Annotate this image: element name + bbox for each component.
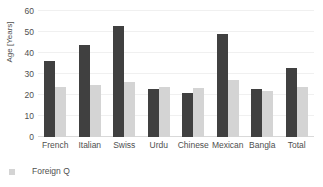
bar-group — [280, 11, 315, 137]
x-tick-label: Bangla — [245, 140, 280, 154]
y-axis-title: Age [Years] — [6, 6, 14, 78]
bar — [297, 87, 308, 137]
bar-groups — [38, 11, 314, 137]
bar-group — [211, 11, 246, 137]
bar-group — [142, 11, 177, 137]
bar — [159, 87, 170, 137]
bar-group — [245, 11, 280, 137]
bar — [124, 82, 135, 137]
bar-group — [73, 11, 108, 137]
legend-label: Foreign Q — [32, 167, 70, 176]
bar-group — [176, 11, 211, 137]
bar — [193, 88, 204, 137]
bar — [217, 34, 228, 137]
chart-legend: Foreign Q — [9, 167, 70, 176]
bar — [90, 85, 101, 138]
bar — [228, 80, 239, 137]
bar — [44, 61, 55, 137]
x-tick-label: Mexican — [211, 140, 246, 154]
legend-item[interactable]: Foreign Q — [9, 167, 70, 176]
x-tick-label: Chinese — [176, 140, 211, 154]
bar — [79, 45, 90, 137]
x-tick-label: Italian — [73, 140, 108, 154]
bar-group — [38, 11, 73, 137]
x-tick-label: Swiss — [107, 140, 142, 154]
bar — [251, 89, 262, 137]
bar — [55, 87, 66, 137]
y-tick-label: 10 — [4, 112, 34, 121]
x-axis-tick-labels: FrenchItalianSwissUrduChineseMexicanBang… — [38, 140, 314, 154]
plot-area — [38, 11, 314, 137]
bar-group — [107, 11, 142, 137]
x-tick-label: French — [38, 140, 73, 154]
bar — [286, 68, 297, 137]
bar — [148, 89, 159, 137]
x-tick-label: Total — [280, 140, 315, 154]
bar-chart: 0102030405060 Age [Years] FrenchItalianS… — [0, 0, 323, 187]
legend-swatch-icon — [9, 169, 15, 175]
y-tick-label: 20 — [4, 91, 34, 100]
bar — [113, 26, 124, 137]
bar — [182, 93, 193, 137]
y-tick-label: 0 — [4, 133, 34, 142]
bar — [262, 91, 273, 137]
x-tick-label: Urdu — [142, 140, 177, 154]
